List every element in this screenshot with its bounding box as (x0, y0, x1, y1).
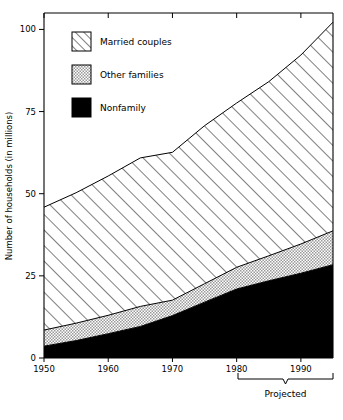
legend-label: Married couples (100, 37, 172, 47)
chart-root: 0255075100 19501960197019801990 Number o… (0, 0, 343, 420)
chart-legend: Married couplesOther familiesNonfamily (72, 32, 172, 117)
y-axis-ticks: 0255075100 (20, 24, 44, 363)
y-tick-label: 25 (25, 271, 36, 281)
x-tick-label: 1990 (290, 364, 312, 374)
legend-label: Other families (100, 70, 164, 80)
legend-swatch-solid-black (72, 98, 91, 117)
legend-swatch-diagonal-hatch (72, 32, 91, 51)
y-tick-label: 50 (25, 189, 36, 199)
x-tick-label: 1980 (226, 364, 248, 374)
projected-bracket (238, 373, 333, 384)
stacked-area-chart: 0255075100 19501960197019801990 Number o… (0, 0, 343, 420)
bracket-path (238, 373, 333, 384)
legend-label: Nonfamily (100, 103, 146, 113)
y-tick-label: 100 (20, 24, 36, 34)
x-tick-label: 1970 (162, 364, 184, 374)
y-tick-label: 0 (31, 353, 36, 363)
projected-label: Projected (264, 389, 306, 399)
x-tick-label: 1950 (33, 364, 55, 374)
x-tick-label: 1960 (97, 364, 119, 374)
y-tick-label: 75 (25, 107, 36, 117)
legend-swatch-stippled-gray (72, 65, 91, 84)
y-axis-label: Number of households (in millions) (4, 112, 14, 261)
